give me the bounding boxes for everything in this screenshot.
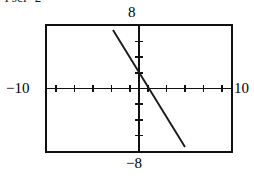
x-min-label: −10 <box>6 80 29 96</box>
plot-svg <box>47 26 231 151</box>
y-min-label: −8 <box>126 155 142 171</box>
graph-window <box>45 24 233 153</box>
window-scale-caption: Yscl=2 <box>2 0 41 6</box>
coordinate-plane <box>47 26 231 151</box>
y-max-label: 8 <box>128 4 136 20</box>
x-max-label: 10 <box>234 80 249 96</box>
